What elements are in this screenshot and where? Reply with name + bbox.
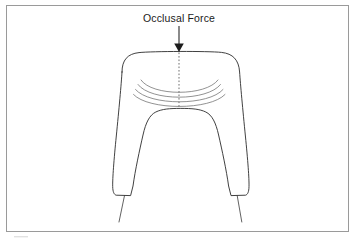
- occlusal-force-label: Occlusal Force: [143, 12, 215, 24]
- occlusal-force-diagram: Occlusal Force: [0, 0, 359, 242]
- scan-artifact: [14, 236, 28, 237]
- figure-root: Occlusal Force: [0, 0, 359, 242]
- figure-border: [7, 6, 349, 232]
